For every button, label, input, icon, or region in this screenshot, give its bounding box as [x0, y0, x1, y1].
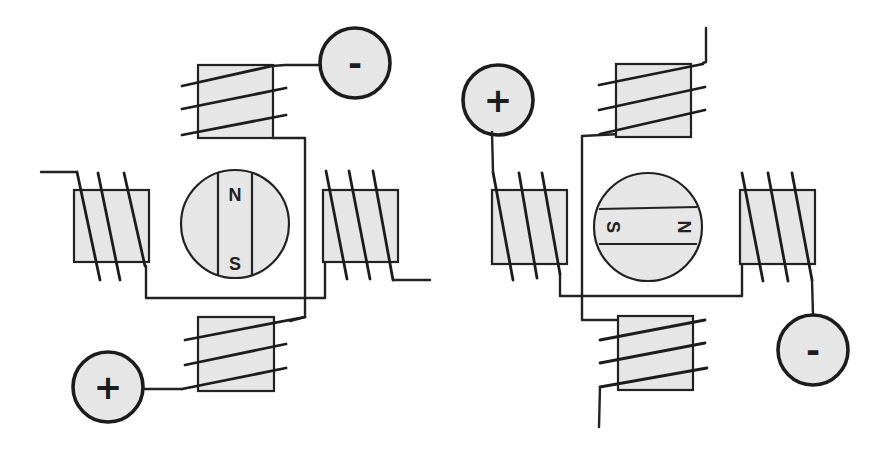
right-motor-rotor: S N	[594, 173, 702, 281]
coil-lead-wire	[703, 28, 706, 63]
right-motor-right-coil	[740, 173, 815, 315]
minus-sign-icon: -	[806, 330, 820, 370]
coil-lead-wire	[599, 387, 600, 427]
north-pole-label: N	[229, 185, 242, 205]
plus-sign-icon: +	[484, 80, 513, 120]
plus-sign-icon: +	[94, 367, 123, 407]
right-motor-left-coil	[492, 132, 567, 280]
right-motor-negative-terminal: -	[778, 315, 848, 385]
right-motor: + S N	[463, 28, 848, 427]
left-motor-bottom-coil	[145, 317, 305, 391]
south-pole-label: S	[603, 221, 623, 233]
left-motor-left-coil	[41, 172, 149, 280]
terminal-lead-wire	[492, 132, 493, 172]
minus-sign-icon: -	[348, 43, 362, 83]
stepper-motor-diagram: - N S	[0, 0, 882, 449]
left-motor-top-coil	[182, 65, 320, 138]
south-pole-label: S	[229, 254, 241, 274]
coil-lead-wire	[272, 65, 320, 66]
left-motor-rotor: N S	[181, 170, 289, 278]
left-motor-right-coil	[323, 171, 430, 280]
left-motor-positive-terminal: +	[73, 352, 143, 422]
north-pole-label: N	[674, 221, 694, 234]
right-motor-positive-terminal: +	[463, 65, 533, 135]
coil-core	[198, 65, 273, 138]
left-motor: - N S	[41, 28, 430, 422]
coil-core	[74, 190, 149, 262]
right-motor-bottom-coil	[599, 316, 707, 427]
left-motor-negative-terminal: -	[320, 28, 390, 98]
right-motor-top-coil	[599, 28, 706, 137]
coil-lead-wire	[812, 280, 813, 315]
